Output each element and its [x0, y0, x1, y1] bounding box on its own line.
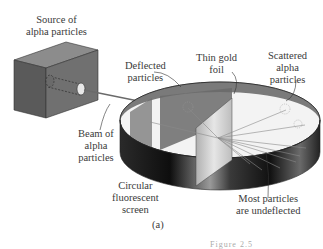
- label-line: particles: [125, 72, 166, 84]
- panel-label: (a): [152, 219, 164, 230]
- label-line: alpha particles: [26, 26, 87, 38]
- label-line: Most particles: [236, 193, 300, 205]
- label-line: Beam of: [78, 128, 114, 140]
- label-line: Thin gold: [196, 52, 237, 64]
- label-most-particles-undeflected: Most particles are undeflected: [236, 193, 300, 217]
- label-line: Deflected: [125, 60, 166, 72]
- label-line: screen: [112, 204, 159, 216]
- label-line: particles: [268, 74, 307, 86]
- label-scattered-alpha-particles: Scattered alpha particles: [268, 50, 307, 86]
- label-deflected-particles: Deflected particles: [125, 60, 166, 84]
- label-thin-gold-foil: Thin gold foil: [196, 52, 237, 76]
- label-line: particles: [78, 152, 114, 164]
- label-source: Source of alpha particles: [26, 14, 87, 38]
- label-circular-fluorescent-screen: Circular fluorescent screen: [112, 180, 159, 216]
- label-line: Scattered: [268, 50, 307, 62]
- label-line: Source of: [26, 14, 87, 26]
- label-beam-of-alpha-particles: Beam of alpha particles: [78, 128, 114, 164]
- figure-caption-partial: Figure 2.5: [210, 240, 253, 249]
- alpha-source-box: [14, 42, 98, 118]
- label-line: are undeflected: [236, 205, 300, 217]
- label-line: Circular: [112, 180, 159, 192]
- label-line: alpha: [268, 62, 307, 74]
- label-line: fluorescent: [112, 192, 159, 204]
- label-line: alpha: [78, 140, 114, 152]
- label-line: foil: [196, 64, 237, 76]
